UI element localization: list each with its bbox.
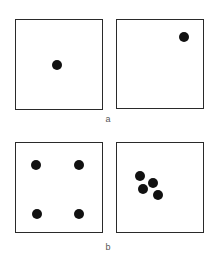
dot — [179, 32, 189, 42]
dot — [31, 160, 41, 170]
panel-a-right — [116, 19, 204, 109]
dot — [135, 171, 145, 181]
row-label-b: b — [98, 242, 118, 252]
panel-b-right — [116, 142, 204, 233]
dot — [74, 160, 84, 170]
dot — [148, 178, 158, 188]
dot — [32, 209, 42, 219]
dot — [138, 184, 148, 194]
dot — [153, 190, 163, 200]
panel-b-left — [15, 142, 103, 233]
dot — [52, 60, 62, 70]
dot — [74, 209, 84, 219]
row-label-a: a — [98, 114, 118, 124]
